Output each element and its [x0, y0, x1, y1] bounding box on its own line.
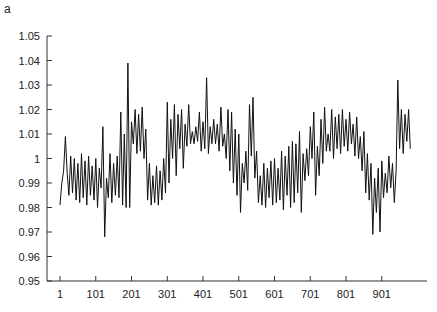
x-tick-label: 301 [158, 288, 176, 300]
y-tick-label: 0.99 [19, 177, 40, 189]
y-tick-label: 1.05 [19, 30, 40, 42]
y-tick-label: 0.96 [19, 251, 40, 263]
x-tick-label: 201 [122, 288, 140, 300]
y-tick-label: 1 [34, 153, 40, 165]
y-tick-label: 1.04 [19, 55, 40, 67]
y-tick-label: 1.03 [19, 79, 40, 91]
x-tick-label: 501 [230, 288, 248, 300]
x-tick-label: 1 [57, 288, 63, 300]
line-chart: 0.950.960.970.980.9911.011.021.031.041.0… [0, 0, 437, 312]
x-tick-label: 401 [194, 288, 212, 300]
y-tick-label: 0.95 [19, 275, 40, 287]
y-tick-label: 1.01 [19, 128, 40, 140]
x-tick-label: 601 [265, 288, 283, 300]
x-ticks: 1101201301401501601701801901 [57, 276, 391, 300]
x-tick-label: 901 [373, 288, 391, 300]
chart-axes [47, 36, 427, 281]
data-line [60, 63, 410, 237]
x-tick-label: 101 [87, 288, 105, 300]
x-tick-label: 701 [301, 288, 319, 300]
y-tick-label: 0.97 [19, 226, 40, 238]
y-tick-label: 0.98 [19, 202, 40, 214]
y-tick-label: 1.02 [19, 104, 40, 116]
x-tick-label: 801 [337, 288, 355, 300]
